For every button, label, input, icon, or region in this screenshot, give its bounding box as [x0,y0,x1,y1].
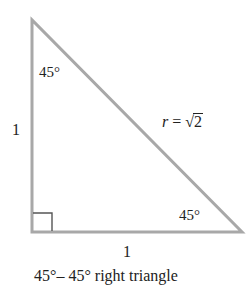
hypotenuse-equals: = [168,113,185,130]
radicand: 2 [193,113,203,130]
triangle-graphic [0,0,250,307]
diagram-canvas: 45° 45° 1 1 r = √2 45°– 45° right triang… [0,0,250,307]
caption: 45°– 45° right triangle [34,268,178,284]
triangle [32,20,242,232]
vertical-side-label: 1 [12,122,20,138]
bottom-right-angle-label: 45° [179,208,200,223]
top-angle-label: 45° [39,65,60,80]
horizontal-side-label: 1 [123,244,131,260]
sqrt-expression: √2 [185,113,203,130]
hypotenuse-label: r = √2 [162,113,203,130]
right-angle-mark [33,213,52,231]
